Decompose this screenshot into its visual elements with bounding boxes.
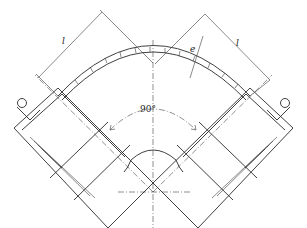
label-l-left: l (62, 36, 65, 46)
left-leg (14, 88, 153, 228)
elbow-drawing: l l e 90° (0, 0, 307, 228)
dimension-left: l (36, 10, 153, 96)
label-l-right: l (236, 38, 239, 48)
center-lines (35, 40, 272, 228)
wall-thickness-dimension: e (190, 36, 203, 78)
dimension-right: l (155, 14, 270, 96)
label-e: e (190, 44, 195, 54)
label-90-degrees: 90° (140, 104, 156, 114)
